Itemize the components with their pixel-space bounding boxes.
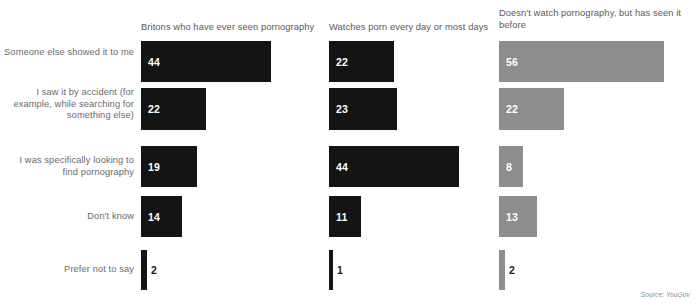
bar-value-c2-r3: 44 <box>336 161 348 173</box>
bar-value-c3-r2: 22 <box>506 103 518 115</box>
bar-c2-r3: 44 <box>329 146 459 187</box>
bar-c2-r1: 22 <box>329 41 394 82</box>
bar-value-c2-r5: 1 <box>337 264 343 276</box>
row-label-2: I was specifically looking to find porno… <box>2 155 134 178</box>
bar-c3-r2: 22 <box>499 88 564 130</box>
bar-c1-r5: 2 <box>141 250 147 290</box>
bar-value-c1-r2: 22 <box>148 103 160 115</box>
column-header-3: Doesn't watch pornography, but has seen … <box>499 8 689 31</box>
bar-value-c1-r5: 2 <box>151 264 157 276</box>
bar-value-c2-r2: 23 <box>336 103 348 115</box>
bar-c3-r1: 56 <box>499 41 664 82</box>
bar-value-c1-r3: 19 <box>148 161 160 173</box>
bar-c1-r4: 14 <box>141 196 182 237</box>
bar-c3-r4: 13 <box>499 196 537 237</box>
column-header-2: Watches porn every day or most days <box>329 22 509 34</box>
bar-c1-r2: 22 <box>141 88 206 130</box>
row-label-0: Someone else showed it to me <box>2 47 134 59</box>
bar-value-c1-r1: 44 <box>148 56 160 68</box>
row-label-3: Don't know <box>2 211 134 223</box>
bar-c2-r5: 1 <box>329 250 333 290</box>
bar-c3-r3: 8 <box>499 146 523 187</box>
bar-chart: Britons who have ever seen pornography W… <box>0 0 696 303</box>
bar-c1-r3: 19 <box>141 146 197 187</box>
bar-c1-r1: 44 <box>141 41 271 82</box>
row-label-1: I saw it by accident (for example, while… <box>2 87 134 122</box>
bar-c2-r4: 11 <box>329 196 361 237</box>
bar-value-c2-r4: 11 <box>336 211 348 223</box>
bar-value-c3-r3: 8 <box>506 161 512 173</box>
bar-value-c3-r5: 2 <box>509 264 515 276</box>
row-label-4: Prefer not to say <box>2 264 134 276</box>
source-note: Source: YouGov <box>641 291 690 298</box>
bar-c3-r5: 2 <box>499 250 505 290</box>
bar-c2-r2: 23 <box>329 88 397 130</box>
bar-value-c2-r1: 22 <box>336 56 348 68</box>
bar-value-c1-r4: 14 <box>148 211 160 223</box>
bar-value-c3-r1: 56 <box>506 56 518 68</box>
bar-value-c3-r4: 13 <box>506 211 518 223</box>
column-header-1: Britons who have ever seen pornography <box>141 22 326 34</box>
